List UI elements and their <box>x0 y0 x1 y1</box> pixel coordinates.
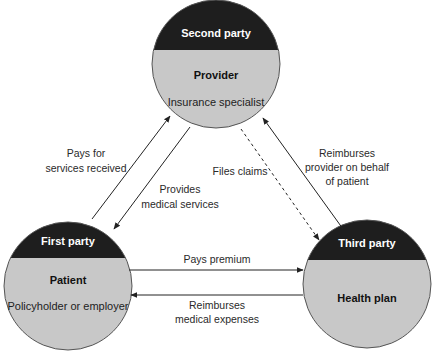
node-header-label: First party <box>41 235 96 247</box>
label-provides-services: Provides medical services <box>141 183 219 210</box>
insurance-relationship-diagram: Second party Provider Insurance speciali… <box>0 0 436 354</box>
node-title: Provider <box>194 69 239 81</box>
label-reimburses-provider: Reimburses provider on behalf of patient <box>305 147 389 187</box>
node-first-party: First party Patient Policyholder or empl… <box>4 222 132 352</box>
label-line: provider on behalf <box>305 161 389 173</box>
arrow-files-claims <box>241 129 319 240</box>
node-subtitle: Insurance specialist <box>168 96 265 108</box>
arrow-reimburses-provider <box>263 118 343 229</box>
label-line: medical services <box>141 198 219 210</box>
label-line: Files claims <box>213 165 268 177</box>
label-line: services received <box>45 162 126 174</box>
node-title: Patient <box>50 274 87 286</box>
label-reimburses-expenses: Reimburses medical expenses <box>175 299 259 325</box>
label-line: Reimburses <box>189 299 245 311</box>
node-header-label: Second party <box>181 27 252 39</box>
label-line: of patient <box>325 175 368 187</box>
label-files-claims: Files claims <box>213 165 268 177</box>
label-line: Pays premium <box>183 253 250 265</box>
node-subtitle: Policyholder or employer <box>7 300 128 312</box>
label-line: Pays for <box>67 147 106 159</box>
node-header-bg <box>152 0 280 50</box>
node-body-bg <box>303 260 431 350</box>
label-pays-premium: Pays premium <box>183 253 250 265</box>
node-body-bg <box>152 50 280 130</box>
label-pays-for-services: Pays for services received <box>45 147 126 174</box>
node-second-party: Second party Provider Insurance speciali… <box>152 0 280 130</box>
node-third-party: Third party Health plan <box>303 220 431 350</box>
label-line: medical expenses <box>175 313 259 325</box>
label-line: Reimburses <box>319 147 375 159</box>
label-line: Provides <box>160 183 201 195</box>
node-title: Health plan <box>337 292 397 304</box>
arrow-provides-services <box>114 127 190 229</box>
node-header-label: Third party <box>338 237 396 249</box>
